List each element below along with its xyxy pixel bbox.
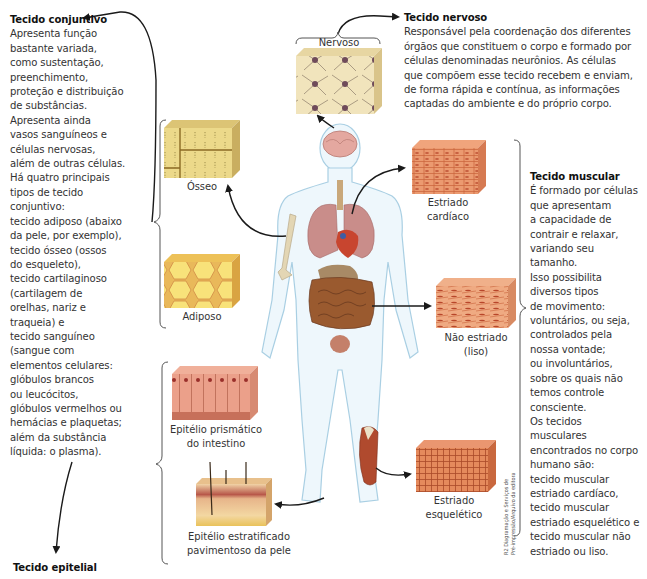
text-line: humano são: bbox=[530, 458, 647, 472]
text-line: orelhas, nariz e bbox=[10, 301, 160, 315]
credit-line: R2 Diagramação e Serviços de bbox=[503, 472, 510, 555]
text-line: do esqueleto), bbox=[10, 258, 160, 272]
text-line: Responsável pela coordenação dos diferen… bbox=[404, 25, 647, 39]
connective-tissue-description: Tecido conjuntivo Apresenta função basta… bbox=[10, 13, 160, 460]
text-line: glóbulos brancos bbox=[10, 373, 160, 387]
text-line: estriado esquelético e bbox=[530, 516, 647, 530]
text-line: Apresenta ainda bbox=[10, 114, 160, 128]
text-line: ou involuntários, bbox=[530, 357, 647, 371]
text-line: Apresenta função bbox=[10, 27, 160, 41]
text-line: diversos tipos bbox=[530, 285, 647, 299]
caption-line: Estriado bbox=[412, 494, 496, 508]
text-line: Os tecidos bbox=[530, 415, 647, 429]
text-line: ou leucócitos, bbox=[10, 388, 160, 402]
caption-nao-estriado-liso: Não estriado (liso) bbox=[434, 331, 518, 359]
nervous-tissue-description: Tecido nervoso Responsável pela coordena… bbox=[404, 11, 647, 112]
text-line: temos controle bbox=[530, 386, 647, 400]
smooth-muscle-block bbox=[436, 278, 516, 328]
bladder bbox=[330, 335, 350, 353]
text-line: como sustentação, bbox=[10, 56, 160, 70]
text-line: controlados pela bbox=[530, 328, 647, 342]
nervous-tissue-title: Tecido nervoso bbox=[404, 11, 647, 25]
text-line: contrair e relaxar, bbox=[530, 228, 647, 242]
text-line: nossa vontade; bbox=[530, 343, 647, 357]
text-line: bastante variada, bbox=[10, 42, 160, 56]
text-line: musculares bbox=[530, 429, 647, 443]
text-line: além de outras células. bbox=[10, 157, 160, 171]
credit-line: Pré-impressão/Arquivo da editora bbox=[510, 472, 517, 555]
text-line: de forma rápida e contínua, as informaçõ… bbox=[404, 83, 647, 97]
columnar-epithelium-block bbox=[172, 366, 258, 420]
caption-line: Estriado bbox=[408, 196, 488, 210]
text-line: tecido ósseo (ossos bbox=[10, 244, 160, 258]
trachea bbox=[337, 180, 343, 210]
caption-line: (liso) bbox=[434, 345, 518, 359]
caption-estriado-cardiaco: Estriado cardíaco bbox=[408, 196, 488, 224]
text-line: da pele, por exemplo), bbox=[10, 229, 160, 243]
text-line: tecido muscular não bbox=[530, 530, 647, 544]
text-line: tamanho. bbox=[530, 256, 647, 270]
text-line: É formado por células bbox=[530, 184, 647, 198]
adipose-tissue-block bbox=[164, 254, 240, 308]
caption-line: pavimentoso da pele bbox=[176, 544, 302, 558]
caption-nervoso: Nervoso bbox=[300, 36, 378, 50]
muscular-tissue-description: Tecido muscular É formado por células qu… bbox=[530, 170, 647, 559]
text-line: (sangue com bbox=[10, 344, 160, 358]
text-line: tecido muscular bbox=[530, 473, 647, 487]
text-line: hemácias e plaquetas; bbox=[10, 416, 160, 430]
caption-line: Epitélio prismático bbox=[160, 423, 272, 437]
text-line: elementos celulares: bbox=[10, 359, 160, 373]
caption-epitelio-prismatico: Epitélio prismático do intestino bbox=[160, 423, 272, 451]
text-line: tecido muscular bbox=[530, 501, 647, 515]
text-line: (cartilagem de bbox=[10, 287, 160, 301]
tissue-diagram: Tecido conjuntivo Apresenta função basta… bbox=[0, 0, 647, 579]
nerve-tissue-block bbox=[296, 48, 382, 114]
text-line: captadas do ambiente e do próprio corpo. bbox=[404, 97, 647, 111]
text-line: células nervosas, bbox=[10, 143, 160, 157]
caption-line: Não estriado bbox=[434, 331, 518, 345]
text-line: traqueia) e bbox=[10, 316, 160, 330]
text-line: líquida: o plasma). bbox=[10, 445, 160, 459]
caption-estriado-esqueletico: Estriado esquelético bbox=[412, 494, 496, 522]
text-line: consciente. bbox=[530, 401, 647, 415]
epithelial-tissue-heading: Tecido epitelial bbox=[13, 561, 97, 575]
text-line: variando seu bbox=[530, 242, 647, 256]
text-line: glóbulos vermelhos ou bbox=[10, 402, 160, 416]
text-line: além da substância bbox=[10, 431, 160, 445]
text-line: sobre os quais não bbox=[530, 372, 647, 386]
text-line: tipos de tecido bbox=[10, 186, 160, 200]
text-line: estriado ou liso. bbox=[530, 545, 647, 559]
caption-line: esquelético bbox=[412, 508, 496, 522]
bone-tissue-block bbox=[164, 120, 240, 178]
text-line: Isso possibilita bbox=[530, 271, 647, 285]
text-line: conjuntivo: bbox=[10, 200, 160, 214]
text-line: tecido sanguíneo bbox=[10, 330, 160, 344]
text-line: órgãos que constituem o corpo e formado … bbox=[404, 40, 647, 54]
text-line: de substâncias. bbox=[10, 99, 160, 113]
caption-line: do intestino bbox=[160, 437, 272, 451]
text-line: preenchimento, bbox=[10, 71, 160, 85]
caption-epitelio-pele: Epitélio estratificado pavimentoso da pe… bbox=[176, 530, 302, 558]
text-line: estriado cardíaco, bbox=[530, 487, 647, 501]
text-line: que apresentam bbox=[530, 199, 647, 213]
text-line: a capacidade de bbox=[530, 213, 647, 227]
caption-osseo: Ósseo bbox=[164, 180, 240, 194]
caption-line: cardíaco bbox=[408, 210, 488, 224]
text-line: tecido cartilaginoso bbox=[10, 272, 160, 286]
text-line: proteção e distribuição bbox=[10, 85, 160, 99]
text-line: Há quatro principais bbox=[10, 171, 160, 185]
caption-line: Epitélio estratificado bbox=[176, 530, 302, 544]
cardiac-muscle-block bbox=[412, 140, 486, 194]
skin-epithelium-block bbox=[196, 462, 272, 526]
text-line: vasos sanguíneos e bbox=[10, 128, 160, 142]
text-line: tecido adiposo (abaixo bbox=[10, 215, 160, 229]
text-line: que compõem esse tecido recebem e enviam… bbox=[404, 69, 647, 83]
text-line: de movimento: bbox=[530, 300, 647, 314]
text-line: voluntários, ou seja, bbox=[530, 314, 647, 328]
image-credit: R2 Diagramação e Serviços de Pré-impress… bbox=[503, 472, 516, 555]
connective-tissue-title: Tecido conjuntivo bbox=[10, 13, 160, 27]
text-line: encontrados no corpo bbox=[530, 444, 647, 458]
caption-adiposo: Adiposo bbox=[164, 310, 240, 324]
skeletal-muscle-block bbox=[416, 440, 496, 492]
epithelial-tissue-title: Tecido epitelial bbox=[13, 561, 97, 575]
